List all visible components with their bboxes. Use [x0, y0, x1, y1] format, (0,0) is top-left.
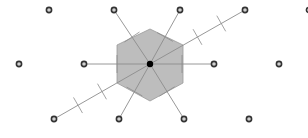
- lattice-point: [51, 116, 56, 121]
- origin-dot: [147, 61, 153, 67]
- lattice-point: [16, 61, 21, 66]
- lattice-point: [242, 7, 247, 12]
- lattice-point: [81, 61, 86, 66]
- lattice-point: [306, 7, 308, 12]
- bisector-line: [217, 16, 226, 32]
- lattice-point: [276, 61, 281, 66]
- bisector-line: [193, 29, 202, 45]
- lattice-point: [116, 116, 121, 121]
- lattice-point: [46, 7, 51, 12]
- bisector-line: [74, 97, 83, 113]
- lattice-point: [211, 61, 216, 66]
- origin-point: [147, 61, 153, 67]
- lattice-point: [177, 7, 182, 12]
- wigner-seitz-diagram: [0, 0, 308, 138]
- bisector-line: [98, 84, 107, 100]
- lattice-point: [111, 7, 116, 12]
- lattice-point: [181, 116, 186, 121]
- lattice-point: [246, 116, 251, 121]
